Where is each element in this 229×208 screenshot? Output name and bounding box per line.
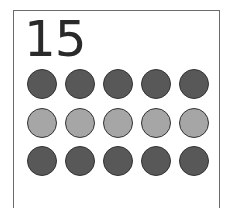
counter-dot — [65, 108, 95, 138]
counter-dot — [65, 146, 95, 176]
counter-dot — [179, 69, 209, 99]
counter-dot — [27, 108, 57, 138]
counter-dot — [103, 69, 133, 99]
number-label: 15 — [24, 14, 86, 64]
counter-dot — [179, 108, 209, 138]
counter-dot — [141, 108, 171, 138]
counter-dot — [103, 108, 133, 138]
counter-dot — [141, 69, 171, 99]
counter-dot — [179, 146, 209, 176]
counter-dot — [27, 146, 57, 176]
counter-dot — [65, 69, 95, 99]
counter-dot — [141, 146, 171, 176]
counter-dot — [103, 146, 133, 176]
counter-dot — [27, 69, 57, 99]
